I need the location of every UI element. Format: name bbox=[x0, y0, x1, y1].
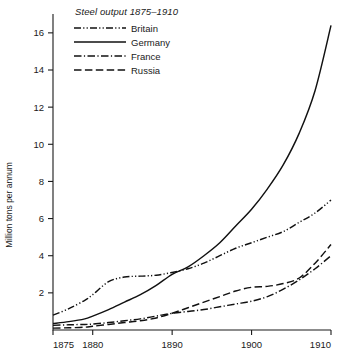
x-tick-label: 1880 bbox=[82, 339, 103, 350]
legend-swatch-britain-icon bbox=[74, 23, 126, 33]
legend-swatch-germany-icon bbox=[74, 37, 126, 47]
x-tick-label: 1890 bbox=[162, 339, 183, 350]
legend-label: Britain bbox=[126, 23, 158, 34]
y-tick-label: 14 bbox=[33, 64, 44, 75]
legend-swatch-france-icon bbox=[74, 51, 126, 61]
legend-item-russia: Russia bbox=[74, 63, 224, 77]
y-tick-label: 12 bbox=[33, 102, 44, 113]
y-tick-label: 4 bbox=[39, 250, 44, 261]
x-tick-label: 1910 bbox=[310, 339, 331, 350]
legend-item-germany: Germany bbox=[74, 35, 224, 49]
y-tick-label: 8 bbox=[39, 176, 44, 187]
legend-label: France bbox=[126, 51, 161, 62]
y-tick-label: 16 bbox=[33, 27, 44, 38]
y-axis-title: Million tons per annum bbox=[4, 162, 14, 248]
legend-item-britain: Britain bbox=[74, 21, 224, 35]
legend-rows: BritainGermanyFranceRussia bbox=[74, 21, 224, 77]
series-line-britain bbox=[53, 200, 331, 315]
y-tick-label: 10 bbox=[33, 139, 44, 150]
y-tick-label: 2 bbox=[39, 287, 44, 298]
chart-title: Steel output 1875–1910 bbox=[75, 6, 224, 17]
y-tick-label: 6 bbox=[39, 213, 44, 224]
chart-legend: Steel output 1875–1910 BritainGermanyFra… bbox=[74, 6, 224, 77]
x-tick-label: 1875 bbox=[53, 339, 74, 350]
legend-label: Germany bbox=[126, 37, 170, 48]
x-axis-ticks: 18751880189019001910 bbox=[53, 330, 331, 350]
chart-container: 246810121416 18751880189019001910 Millio… bbox=[0, 0, 347, 362]
legend-item-france: France bbox=[74, 49, 224, 63]
legend-swatch-russia-icon bbox=[74, 65, 126, 75]
y-axis-ticks: 246810121416 bbox=[33, 27, 53, 298]
x-tick-label: 1900 bbox=[241, 339, 262, 350]
legend-label: Russia bbox=[126, 65, 160, 76]
